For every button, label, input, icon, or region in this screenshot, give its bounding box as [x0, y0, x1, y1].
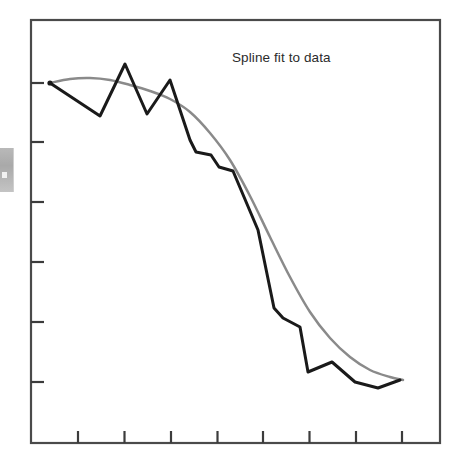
spline-fit-chart: [0, 0, 464, 473]
spline-fit-line: [50, 78, 403, 380]
data-start-marker: [47, 80, 52, 85]
x-axis-ticks: [78, 431, 402, 443]
plot-frame: [31, 20, 440, 443]
y-axis-ticks: [31, 83, 44, 382]
data-polyline: [50, 64, 400, 388]
chart-title: Spline fit to data: [232, 50, 331, 65]
figure-canvas: Spline fit to data: [0, 0, 464, 473]
